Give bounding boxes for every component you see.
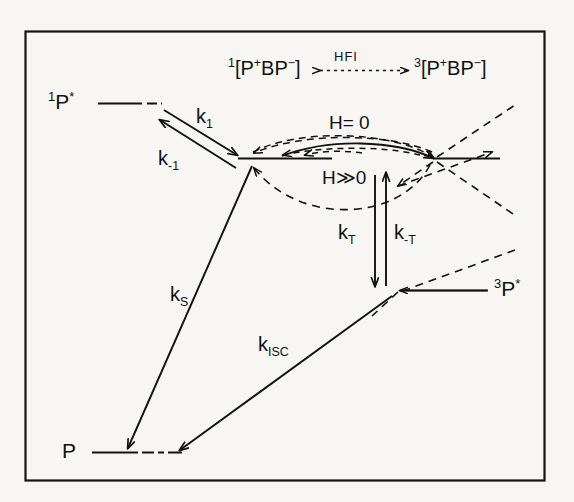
label-singlet-radical-pair: 1[P+BP−]: [228, 57, 301, 78]
rate-k1-subscript: 1: [206, 117, 213, 131]
ground-state-symbol-P: P: [62, 439, 76, 462]
label-high-magnetic-field: H≫0: [322, 168, 366, 187]
triplet-excitation-asterisk: *: [515, 276, 520, 291]
rate-kS-subscript: S: [180, 295, 188, 309]
state-symbol-P: P: [55, 90, 69, 113]
singlet-rp-donor-charge: +: [254, 56, 261, 70]
hfi-text: HFI: [334, 49, 358, 64]
label-rate-k1: k1: [196, 106, 213, 130]
dashed-sublevel-to-triplet-left: [398, 162, 433, 186]
singlet-rp-multiplicity: 1: [228, 56, 235, 70]
figure-canvas: 1P* P 3P* 1[P+BP−] HFI 3[P+BP−] H= 0 H≫0…: [0, 0, 574, 502]
arrow-kISC: [180, 296, 392, 450]
label-hyperfine-interaction: HFI: [334, 50, 358, 63]
high-field-text: H≫0: [322, 167, 366, 188]
label-rate-kT: kT: [338, 222, 356, 246]
label-triplet-radical-pair: 3[P+BP−]: [414, 57, 487, 78]
rate-k-minus-1-subscript: -1: [168, 159, 179, 173]
label-ground-state: P: [62, 440, 76, 461]
label-excited-triplet-state: 3P*: [494, 277, 520, 299]
triplet-rp-donor-charge: +: [440, 56, 447, 70]
triplet-rp-acceptor: BP: [447, 57, 474, 79]
dashed-sublevel-bottom-tail: [372, 292, 398, 316]
arrow-kS: [128, 166, 252, 448]
rate-k-minus-T-subscript: -T: [404, 233, 416, 247]
triplet-rp-multiplicity: 3: [414, 56, 421, 70]
label-rate-kS: kS: [170, 284, 188, 308]
rate-kT-subscript: T: [348, 233, 356, 247]
rate-k1-base: k: [196, 105, 206, 127]
label-excited-singlet-state: 1P*: [48, 90, 74, 112]
dashed-sublevel-upper-right: [437, 105, 515, 157]
singlet-rp-donor: [P: [235, 57, 254, 79]
label-rate-k-minus-1: k-1: [158, 148, 179, 172]
rate-kT-base: k: [338, 221, 348, 243]
triplet-rp-bracket-close: ]: [481, 57, 487, 79]
dashed-sublevel-lower-right: [437, 162, 516, 216]
dashed-sublevel-from-triplet-right: [398, 152, 492, 186]
curve-zero-field-dashed-forward: [253, 136, 433, 157]
triplet-rp-donor: [P: [421, 57, 440, 79]
rate-kS-base: k: [170, 283, 180, 305]
excitation-asterisk: *: [69, 89, 74, 104]
label-rate-k-minus-T: k-T: [394, 222, 416, 246]
rate-k-minus-T-base: k: [394, 221, 404, 243]
rate-kISC-subscript: ISC: [268, 345, 289, 359]
singlet-rp-acceptor-charge: −: [288, 56, 295, 70]
zero-field-text: H= 0: [329, 112, 370, 133]
curve-zero-field-dashed-back-short: [305, 151, 362, 155]
singlet-rp-bracket-close: ]: [295, 57, 301, 79]
rate-kISC-base: k: [258, 333, 268, 355]
singlet-rp-acceptor: BP: [261, 57, 288, 79]
label-rate-kISC: kISC: [258, 334, 289, 358]
rate-k-minus-1-base: k: [158, 147, 168, 169]
figure-frame: [26, 32, 545, 481]
label-zero-magnetic-field: H= 0: [329, 113, 370, 132]
triplet-state-symbol-P: P: [501, 277, 515, 300]
curve-zero-field-dashed-back-outer: [254, 138, 432, 154]
triplet-rp-acceptor-charge: −: [474, 56, 481, 70]
